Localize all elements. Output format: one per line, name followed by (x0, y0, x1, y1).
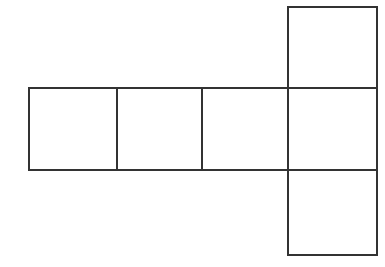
net-face-row-column-3 (202, 88, 288, 170)
net-face-row-column-1 (29, 88, 117, 170)
net-face-row-column-4 (288, 88, 377, 170)
cube-net-figure (0, 0, 385, 267)
cube-net-svg (0, 0, 385, 267)
net-face-bottom (288, 170, 377, 255)
net-face-row-column-2 (117, 88, 202, 170)
net-face-top (288, 7, 377, 88)
